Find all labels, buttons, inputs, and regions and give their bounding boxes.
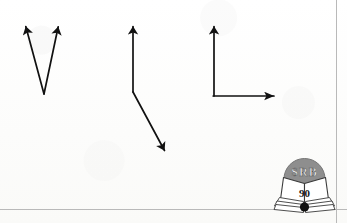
bent-polyline-arrow	[133, 27, 165, 151]
right-angle-axes	[213, 27, 274, 97]
v-shape-two-arrows	[26, 27, 58, 95]
v-left-arrow	[26, 27, 44, 95]
logo-number: 90	[299, 187, 311, 199]
v-right-arrow	[44, 27, 58, 94]
right-rule-line	[336, 0, 337, 223]
srb-publisher-logo: SRB 90	[273, 157, 336, 215]
logo-center-dot	[300, 202, 309, 211]
logo-monogram: SRB	[291, 165, 317, 179]
figure-page: SRB 90	[0, 0, 347, 223]
middle-down-right-arrow	[133, 92, 165, 151]
